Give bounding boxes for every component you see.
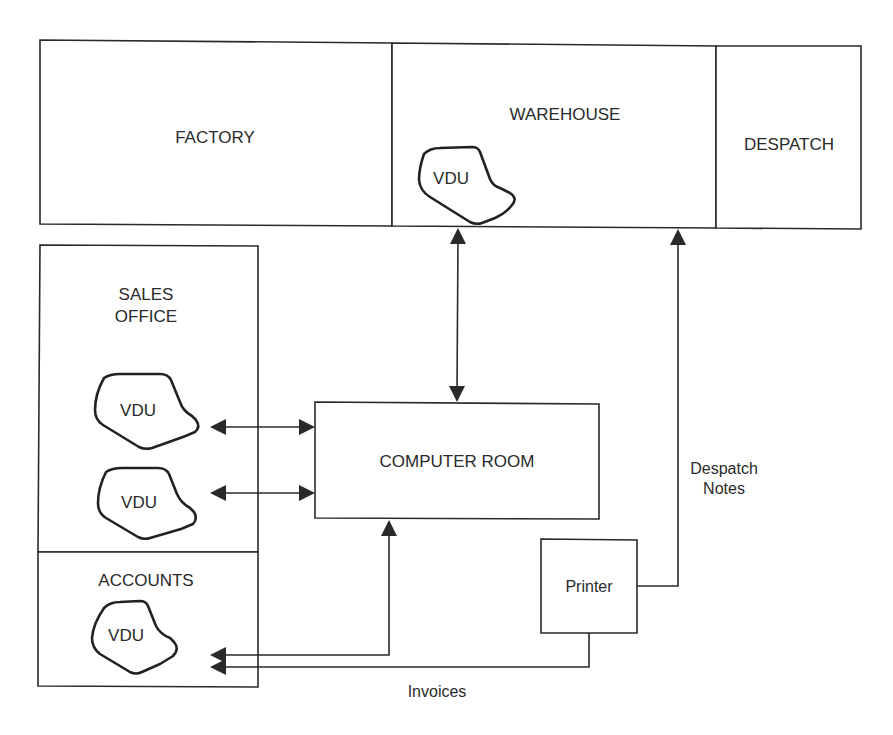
printer: Printer xyxy=(541,539,637,633)
arrow-right-icon xyxy=(299,419,315,435)
sales-office-label-line2: OFFICE xyxy=(115,307,177,326)
arrow-up-icon xyxy=(450,228,466,244)
computer-system-diagram: FACTORY WAREHOUSE DESPATCH VDU SALES OFF… xyxy=(0,0,893,735)
accounts-label: ACCOUNTS xyxy=(98,571,193,590)
accounts-vdu-label: VDU xyxy=(108,626,144,645)
arrow-right-icon xyxy=(299,485,315,501)
despatch-notes-link: Despatch Notes xyxy=(637,229,758,586)
despatch-notes-label-line1: Despatch xyxy=(690,460,758,477)
despatch-notes-label-line2: Notes xyxy=(703,480,745,497)
invoices-label: Invoices xyxy=(408,683,467,700)
computer-room-label: COMPUTER ROOM xyxy=(380,452,535,471)
sales-vdu-1-computer-link xyxy=(210,419,315,435)
sales-office-label-line1: SALES xyxy=(119,285,174,304)
despatch-label: DESPATCH xyxy=(744,135,834,154)
sales-vdu-1-label: VDU xyxy=(120,401,156,420)
printer-label: Printer xyxy=(565,578,613,595)
computer-room: COMPUTER ROOM xyxy=(315,402,599,519)
sales-vdu-2-computer-link xyxy=(210,485,315,501)
arrow-up-icon xyxy=(670,229,686,245)
warehouse-label: WAREHOUSE xyxy=(510,105,621,124)
arrow-down-icon xyxy=(449,386,465,402)
office-building: SALES OFFICE ACCOUNTS VDU VDU VDU xyxy=(38,245,258,687)
warehouse-computer-link xyxy=(449,228,466,402)
invoices-link: Invoices xyxy=(210,633,589,700)
sales-vdu-2-label: VDU xyxy=(121,493,157,512)
factory-label: FACTORY xyxy=(175,128,255,147)
warehouse-vdu-label: VDU xyxy=(433,169,469,188)
top-building: FACTORY WAREHOUSE DESPATCH VDU xyxy=(40,40,861,229)
arrow-up-icon xyxy=(381,520,397,536)
